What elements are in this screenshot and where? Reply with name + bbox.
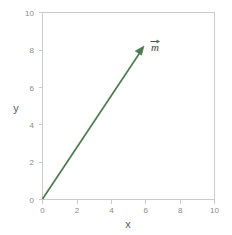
y-tick-label: 8 bbox=[30, 46, 35, 55]
y-axis-title: y bbox=[13, 102, 19, 114]
x-tick-label: 6 bbox=[144, 206, 149, 215]
x-axis-title: x bbox=[125, 218, 131, 230]
y-tick-label: 10 bbox=[25, 9, 34, 18]
y-tick-label: 6 bbox=[30, 84, 35, 93]
x-tick-label: 4 bbox=[109, 206, 114, 215]
x-tick-label: 2 bbox=[75, 206, 80, 215]
y-tick-label: 4 bbox=[30, 121, 35, 130]
x-tick-label: 0 bbox=[40, 206, 45, 215]
x-tick-label: 8 bbox=[178, 206, 183, 215]
y-tick-label: 0 bbox=[30, 196, 35, 205]
vector-label-m: m bbox=[151, 40, 160, 53]
vector-plot-figure: 0 2 4 6 8 10 0 2 4 6 8 10 x y m bbox=[0, 0, 232, 235]
figure-background bbox=[0, 0, 232, 235]
y-tick-label: 2 bbox=[30, 158, 35, 167]
x-tick-label: 10 bbox=[210, 206, 219, 215]
